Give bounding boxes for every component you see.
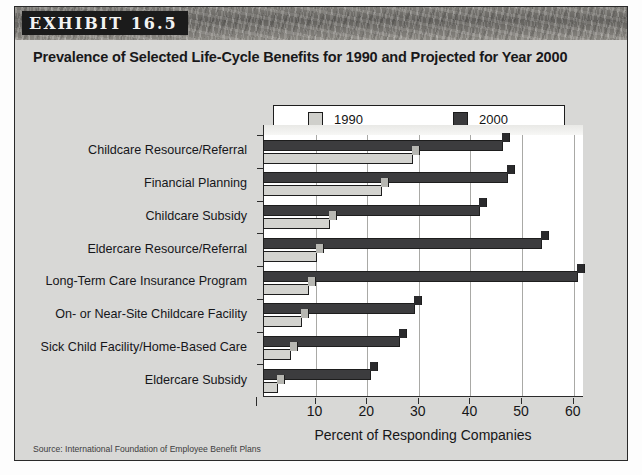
bar-group <box>263 135 583 168</box>
bar-2000 <box>263 140 503 151</box>
bar-group <box>263 233 583 266</box>
category-label: Eldercare Subsidy <box>19 373 255 387</box>
bar-side-face <box>541 231 549 240</box>
bar-group <box>263 364 583 397</box>
category-label: Eldercare Resource/Referral <box>19 242 255 256</box>
bar-side-face <box>301 309 309 318</box>
y-tick <box>257 332 263 333</box>
y-tick <box>257 266 263 267</box>
bar-1990 <box>263 153 413 164</box>
x-tick-label-10: 10 <box>307 403 323 419</box>
bar-group <box>263 266 583 299</box>
bar-2000 <box>263 303 415 314</box>
bar-side-face <box>479 198 487 207</box>
y-tick <box>257 135 263 136</box>
bar-2000 <box>263 205 480 216</box>
category-label: Childcare Resource/Referral <box>19 143 255 157</box>
y-tick <box>257 299 263 300</box>
x-tick-label-20: 20 <box>358 403 374 419</box>
axis-depth-edge <box>256 397 264 406</box>
bar-1990 <box>263 316 302 327</box>
exhibit-number-tag: EXHIBIT 16.5 <box>22 11 188 35</box>
category-label: Childcare Subsidy <box>19 209 255 223</box>
x-tick-label-60: 60 <box>565 403 581 419</box>
bar-side-face <box>329 211 337 220</box>
bar-side-face <box>502 133 510 142</box>
bar-group <box>263 299 583 332</box>
bar-side-face <box>381 178 389 187</box>
bar-1990 <box>263 251 317 262</box>
bar-2000 <box>263 336 400 347</box>
plot-depth-face <box>263 125 583 135</box>
chart-plot: Childcare Resource/ReferralFinancial Pla… <box>15 7 627 460</box>
bar-group <box>263 201 583 234</box>
y-tick <box>257 233 263 234</box>
bars-layer <box>263 135 583 397</box>
bar-side-face <box>414 296 422 305</box>
bar-side-face <box>507 165 515 174</box>
bar-side-face <box>316 244 324 253</box>
bar-1990 <box>263 349 291 360</box>
x-tick-label-40: 40 <box>462 403 478 419</box>
bar-side-face <box>412 146 420 155</box>
exhibit-page: EXHIBIT 16.5 Prevalence of Selected Life… <box>0 0 642 475</box>
bar-side-face <box>290 342 298 351</box>
y-tick <box>257 168 263 169</box>
exhibit-frame: EXHIBIT 16.5 Prevalence of Selected Life… <box>14 6 628 461</box>
y-tick <box>257 201 263 202</box>
bar-group <box>263 332 583 365</box>
bar-side-face <box>577 264 585 273</box>
bar-side-face <box>370 362 378 371</box>
bar-1990 <box>263 218 330 229</box>
bar-side-face <box>277 375 285 384</box>
source-note: Source: International Foundation of Empl… <box>33 444 261 454</box>
x-tick-label-50: 50 <box>513 403 529 419</box>
bar-2000 <box>263 238 542 249</box>
bar-1990 <box>263 382 278 393</box>
bar-side-face <box>399 329 407 338</box>
x-axis-title: Percent of Responding Companies <box>263 427 583 443</box>
bar-1990 <box>263 185 382 196</box>
category-label: Sick Child Facility/Home-Based Care <box>19 340 255 354</box>
category-label: Long-Term Care Insurance Program <box>19 274 255 288</box>
y-tick <box>257 364 263 365</box>
category-label: Financial Planning <box>19 176 255 190</box>
category-label: On- or Near-Site Childcare Facility <box>19 307 255 321</box>
x-tick-label-30: 30 <box>410 403 426 419</box>
bar-group <box>263 168 583 201</box>
bar-side-face <box>308 277 316 286</box>
bar-1990 <box>263 284 309 295</box>
